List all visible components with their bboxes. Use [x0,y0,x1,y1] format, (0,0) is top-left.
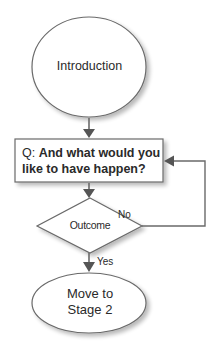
end-node-label: Move to Stage 2 [40,286,140,318]
arrow-question-to-decision [83,183,95,198]
edge-label-no: No [118,209,131,220]
question-text: And what would you like to have happen? [22,146,160,176]
question-prefix: Q: [22,146,39,160]
arrow-yes-to-end [83,253,95,272]
edge-label-yes: Yes [97,256,113,267]
arrow-start-to-question [83,118,95,138]
end-node-label-line2: Stage 2 [40,302,140,318]
start-node-label: Introduction [32,59,147,73]
end-node-label-line1: Move to [40,286,140,302]
decision-node-label: Outcome [50,219,130,231]
question-node-label: Q: And what would you like to have happe… [22,145,162,177]
